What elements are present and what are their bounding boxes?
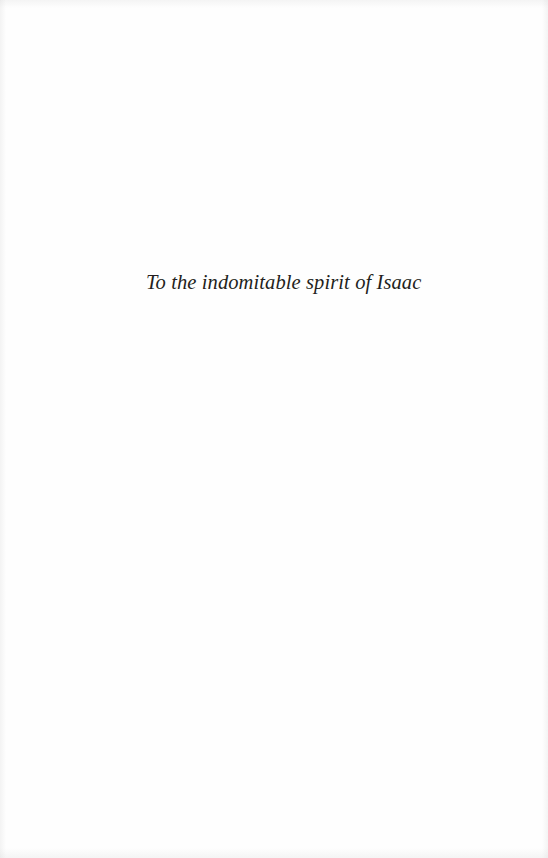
scan-edge-right [542, 0, 548, 858]
scan-edge-bottom [0, 848, 548, 858]
book-page: To the indomitable spirit of Isaac [0, 0, 548, 858]
scan-edge-left [0, 0, 6, 858]
dedication-text: To the indomitable spirit of Isaac [146, 268, 421, 296]
scan-edge-top [0, 0, 548, 8]
